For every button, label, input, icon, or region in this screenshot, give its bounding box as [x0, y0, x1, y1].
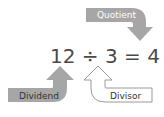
dividend-value: 12 — [50, 44, 75, 68]
equals-sign: = — [124, 44, 141, 68]
divisor-label: Divisor — [110, 90, 141, 102]
dividend-label: Dividend — [19, 90, 59, 102]
quotient-value: 4 — [147, 44, 160, 68]
quotient-label: Quotient — [97, 9, 136, 21]
division-operator: ÷ — [82, 44, 99, 68]
division-equation: 12 ÷ 3 = 4 — [50, 44, 150, 68]
divisor-value: 3 — [105, 44, 118, 68]
